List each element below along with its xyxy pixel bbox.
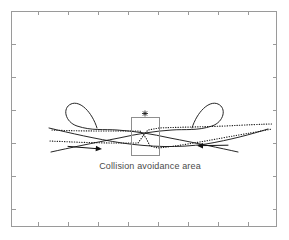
figure-canvas: Collision avoidance area — [0, 0, 289, 240]
asterisk-icon — [142, 111, 147, 116]
canvas-background — [0, 0, 289, 240]
avoidance-area-caption: Collision avoidance area — [99, 161, 201, 171]
collision-avoidance-figure: Collision avoidance area — [0, 0, 289, 240]
